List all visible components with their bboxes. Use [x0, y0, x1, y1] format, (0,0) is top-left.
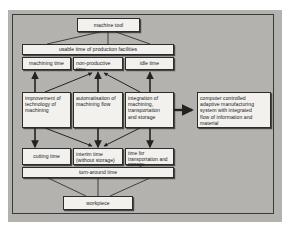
node-idle-time-label: idle time: [128, 60, 171, 66]
node-machine-tool-label: machine tool: [80, 22, 137, 28]
node-improvement-label: improvement of technology of machining: [25, 95, 68, 114]
node-machining-time[interactable]: machining time: [22, 57, 71, 70]
node-non-productive-time-label: non-productive time: [76, 60, 120, 72]
node-improvement-of-technology-of-machining[interactable]: improvement of technology of machining: [22, 92, 71, 128]
node-transportation-time-label: time for transportation and storage: [128, 151, 171, 168]
node-cutting-time-label: cutting time: [25, 153, 68, 159]
node-usable-time-of-production-facilities[interactable]: usable time of production facilities: [22, 44, 174, 55]
node-integration-label: integration of machining, transportation…: [128, 95, 171, 120]
node-automatisation-of-machining-flow[interactable]: automatisation of machining flow: [73, 92, 123, 128]
edge-diagonal-to-interim-group: [45, 128, 140, 146]
figure-page: machine tool usable time of production f…: [0, 0, 290, 229]
node-turn-around-time[interactable]: turn-around time: [22, 167, 174, 178]
node-time-for-transportation-and-storage[interactable]: time for transportation and storage: [125, 148, 174, 165]
node-workpiece-label: workpiece: [66, 200, 130, 206]
node-usable-time-label: usable time of production facilities: [25, 46, 171, 52]
node-non-productive-time[interactable]: non-productive time: [73, 57, 123, 70]
edge-machine-tool-group: [47, 32, 150, 44]
edge-turnaround-to-workpiece: [48, 178, 150, 196]
node-interim-time-label: interim time (without storage): [76, 151, 120, 163]
node-machining-time-label: machining time: [25, 60, 68, 66]
node-integration-of-machining-transportation-and-storage[interactable]: integration of machining, transportation…: [125, 92, 174, 128]
node-workpiece[interactable]: workpiece: [63, 196, 133, 210]
node-interim-time-without-storage[interactable]: interim time (without storage): [73, 148, 123, 165]
node-idle-time[interactable]: idle time: [125, 57, 174, 70]
node-cutting-time[interactable]: cutting time: [22, 148, 71, 165]
node-automatisation-label: automatisation of machining flow: [76, 95, 120, 107]
node-turn-around-time-label: turn-around time: [25, 169, 171, 175]
edge-diagonal-to-nonproductive-group: [45, 73, 140, 92]
node-computer-system-label: computer controlled adaptive manufacturi…: [200, 95, 268, 126]
node-computer-controlled-adaptive-manufacturing-system[interactable]: computer controlled adaptive manufacturi…: [197, 92, 271, 128]
node-machine-tool[interactable]: machine tool: [77, 18, 140, 32]
